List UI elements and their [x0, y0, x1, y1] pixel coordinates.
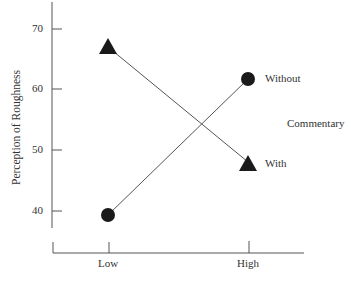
line-without-commentary — [108, 79, 248, 215]
line-with-commentary — [108, 47, 248, 162]
x-tick-label-high: High — [237, 257, 259, 269]
x-tick-label-low: Low — [98, 257, 118, 269]
circle-marker-low — [101, 208, 115, 222]
legend-label-with: With — [265, 157, 287, 169]
y-tick-label-50: 50 — [32, 143, 43, 155]
chart-plot — [0, 0, 351, 285]
circle-marker-high — [241, 72, 255, 86]
legend-label-commentary: Commentary — [287, 117, 344, 129]
legend-label-without: Without — [265, 72, 301, 84]
y-tick-label-40: 40 — [32, 204, 43, 216]
y-tick-label-70: 70 — [32, 22, 43, 34]
triangle-marker-low — [99, 38, 117, 54]
y-tick-label-60: 60 — [32, 82, 43, 94]
